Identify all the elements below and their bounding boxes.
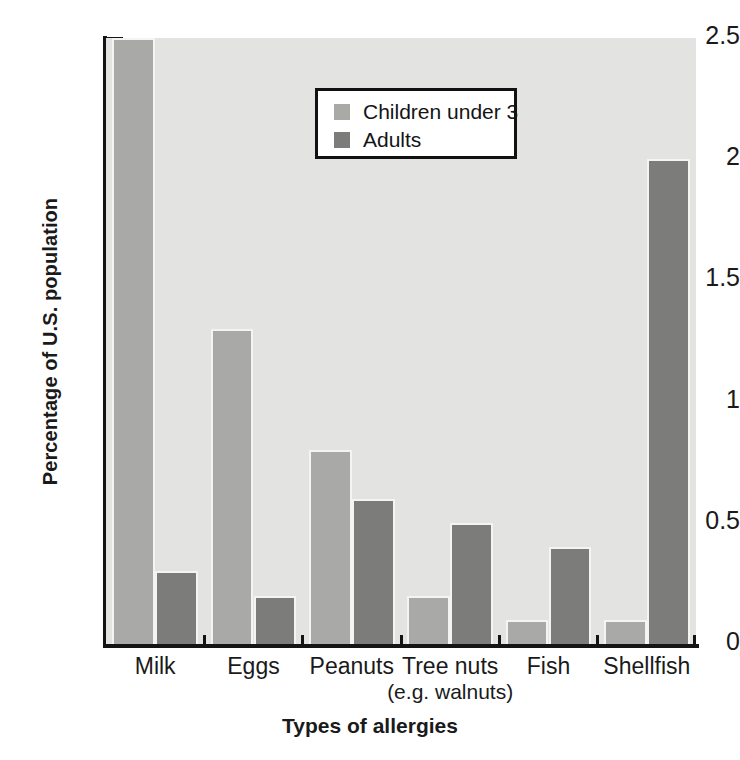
- bar-eggs-adults: [254, 596, 297, 644]
- bar-shellfish-adults: [647, 159, 690, 644]
- bar-peanuts-adults: [352, 499, 395, 644]
- x-axis-separator-tick: [203, 635, 206, 644]
- bar-milk-adults: [155, 571, 198, 644]
- bar-fish-children-under-3: [506, 620, 549, 644]
- bar-fish-adults: [549, 547, 592, 644]
- x-category-label: Milk: [135, 653, 176, 679]
- x-category-sublabel: (e.g. walnuts): [387, 680, 513, 704]
- bar-shellfish-children-under-3: [604, 620, 647, 644]
- legend-label-adults: Adults: [363, 128, 421, 152]
- legend-swatch-children-icon: [334, 104, 350, 120]
- x-category-label: Fish: [527, 653, 570, 679]
- y-axis-title: Percentage of U.S. population: [39, 42, 62, 642]
- legend-label-children: Children under 3: [363, 100, 518, 124]
- x-axis-title: Types of allergies: [0, 714, 740, 738]
- bar-eggs-children-under-3: [211, 329, 254, 644]
- x-axis-line: [103, 644, 699, 648]
- x-category-label: Tree nuts: [402, 653, 498, 679]
- chart-legend: Children under 3 Adults: [315, 88, 517, 159]
- legend-item-children: Children under 3: [334, 98, 514, 126]
- bar-milk-children-under-3: [112, 38, 155, 644]
- x-axis-separator-tick: [400, 635, 403, 644]
- bar-peanuts-children-under-3: [309, 450, 352, 644]
- bar-tree-nuts-adults: [450, 523, 493, 644]
- x-category-label: Peanuts: [310, 653, 394, 679]
- bar-tree-nuts-children-under-3: [407, 596, 450, 644]
- x-axis-separator-tick: [301, 635, 304, 644]
- x-category-label: Eggs: [227, 653, 279, 679]
- legend-item-adults: Adults: [334, 126, 514, 154]
- allergy-bar-chart: Percentage of U.S. population 00.511.522…: [0, 0, 740, 760]
- x-axis-separator-tick: [596, 635, 599, 644]
- x-axis-separator-tick: [693, 635, 696, 644]
- legend-swatch-adults-icon: [334, 132, 350, 148]
- x-axis-separator-tick: [498, 635, 501, 644]
- x-category-label: Shellfish: [603, 653, 690, 679]
- x-category-shellfish: Shellfish: [584, 654, 710, 680]
